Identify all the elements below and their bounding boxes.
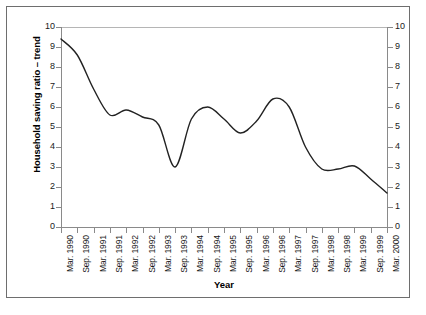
y-tick-label-right: 5	[395, 122, 417, 131]
y-tick-label-right: 0	[395, 222, 417, 231]
x-tick-label: Mar. 1995	[228, 235, 238, 272]
x-tick-label: Sep. 1994	[212, 235, 222, 273]
y-tick-mark-right	[388, 67, 393, 68]
x-tick-label: Sep. 1997	[310, 235, 320, 273]
y-tick-mark-right	[388, 207, 393, 208]
y-tick-mark-right	[388, 167, 393, 168]
x-tick-label: Mar. 1992	[130, 235, 140, 272]
y-tick-mark-right	[388, 27, 393, 28]
x-tick-mark	[289, 228, 290, 233]
x-tick-mark	[126, 228, 127, 233]
y-tick-label-right: 6	[395, 102, 417, 111]
x-tick-mark	[94, 228, 95, 233]
y-tick-mark-right	[388, 127, 393, 128]
y-tick-label-right: 7	[395, 82, 417, 91]
y-axis-title: Household saving ratio – trend	[31, 20, 42, 190]
y-tick-mark-right	[388, 107, 393, 108]
x-tick-mark	[240, 228, 241, 233]
x-tick-mark	[175, 228, 176, 233]
x-tick-mark	[306, 228, 307, 233]
x-tick-mark	[224, 228, 225, 233]
x-tick-mark	[208, 228, 209, 233]
y-tick-label-right: 3	[395, 162, 417, 171]
x-tick-mark	[143, 228, 144, 233]
y-tick-label-right: 1	[395, 202, 417, 211]
x-tick-mark	[77, 228, 78, 233]
x-tick-mark	[387, 228, 388, 233]
y-tick-label-left: 0	[33, 222, 55, 231]
x-tick-label: Sep. 1996	[277, 235, 287, 273]
y-tick-mark-right	[388, 47, 393, 48]
x-tick-label: Mar. 1991	[98, 235, 108, 272]
x-tick-label: Sep. 1990	[81, 235, 91, 273]
x-tick-label: Mar. 1994	[195, 235, 205, 272]
x-tick-label: Sep. 1993	[179, 235, 189, 273]
x-tick-label: Sep. 1991	[114, 235, 124, 273]
x-tick-mark	[257, 228, 258, 233]
x-tick-mark	[354, 228, 355, 233]
y-tick-label-right: 8	[395, 62, 417, 71]
y-tick-label-right: 9	[395, 42, 417, 51]
y-tick-mark-right	[388, 87, 393, 88]
x-tick-label: Mar. 1998	[326, 235, 336, 272]
x-tick-label: Sep. 1998	[342, 235, 352, 273]
x-tick-label: Mar. 1996	[261, 235, 271, 272]
x-tick-label: Mar. 2000	[391, 235, 401, 272]
y-tick-label-right: 10	[395, 22, 417, 31]
y-tick-label-left: 1	[33, 202, 55, 211]
x-tick-label: Sep. 1992	[147, 235, 157, 273]
x-tick-label: Sep. 1999	[375, 235, 385, 273]
x-tick-mark	[322, 228, 323, 233]
x-tick-mark	[61, 228, 62, 233]
x-tick-mark	[273, 228, 274, 233]
x-tick-mark	[110, 228, 111, 233]
y-tick-mark-right	[388, 187, 393, 188]
series-line-household-saving-ratio	[61, 27, 387, 227]
x-tick-mark	[338, 228, 339, 233]
x-tick-label: Mar. 1997	[293, 235, 303, 272]
y-tick-mark-right	[388, 147, 393, 148]
x-axis-title: Year	[61, 279, 387, 290]
x-tick-mark	[159, 228, 160, 233]
y-tick-mark-right	[388, 227, 393, 228]
y-tick-label-right: 4	[395, 142, 417, 151]
y-tick-label-right: 2	[395, 182, 417, 191]
x-tick-label: Mar. 1990	[65, 235, 75, 272]
chart-figure: 012345678910 012345678910 Mar. 1990Sep. …	[6, 6, 410, 298]
x-tick-label: Mar. 1993	[163, 235, 173, 272]
x-tick-mark	[371, 228, 372, 233]
series-path	[61, 39, 387, 193]
x-tick-label: Sep. 1995	[244, 235, 254, 273]
x-tick-mark	[191, 228, 192, 233]
x-tick-label: Mar. 1999	[358, 235, 368, 272]
